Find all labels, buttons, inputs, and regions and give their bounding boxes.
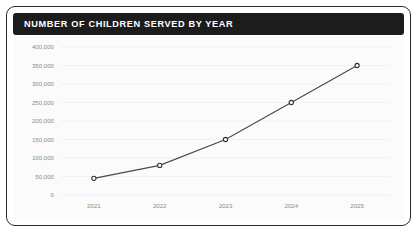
x-axis-tick-label: 2022: [153, 202, 167, 209]
plot-area: 050,000100,000150,000200,000250,000300,0…: [13, 37, 404, 219]
data-point-marker[interactable]: [92, 176, 96, 180]
data-point-marker[interactable]: [355, 63, 359, 67]
y-axis-tick-label: 350,000: [32, 62, 55, 69]
data-point-marker[interactable]: [289, 100, 293, 104]
line-chart: 050,000100,000150,000200,000250,000300,0…: [13, 37, 404, 219]
y-axis-tick-label: 400,000: [32, 43, 55, 50]
y-axis-tick-label: 200,000: [32, 117, 55, 124]
y-axis-tick-label: 150,000: [32, 136, 55, 143]
x-axis-tick-label: 2023: [219, 202, 233, 209]
y-axis-tick-label: 0: [51, 191, 55, 198]
y-axis-tick-label: 300,000: [32, 80, 55, 87]
chart-title-bar: NUMBER OF CHILDREN SERVED BY YEAR: [13, 13, 404, 35]
data-point-marker[interactable]: [223, 137, 227, 141]
y-axis-tick-label: 50,000: [35, 173, 54, 180]
x-axis-tick-label: 2021: [87, 202, 101, 209]
data-series-line: [94, 66, 357, 179]
x-axis-tick-label: 2025: [350, 202, 364, 209]
page-title: NUMBER OF CHILDREN SERVED BY YEAR: [13, 19, 233, 29]
x-axis-tick-label: 2024: [285, 202, 299, 209]
data-point-marker[interactable]: [158, 163, 162, 167]
y-axis-tick-label: 100,000: [32, 154, 55, 161]
y-axis-tick-label: 250,000: [32, 99, 55, 106]
chart-card: NUMBER OF CHILDREN SERVED BY YEAR 050,00…: [6, 6, 411, 226]
